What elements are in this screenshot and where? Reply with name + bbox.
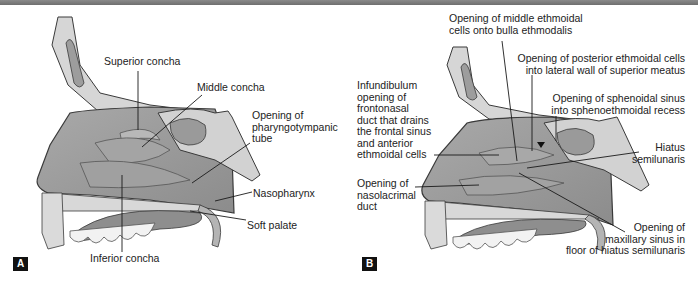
panel-badge-a: A [13, 257, 28, 271]
label-infundibulum: Infundibulum opening of frontonasal duct… [357, 80, 431, 161]
label-superior-concha: Superior concha [104, 56, 180, 68]
label-maxillary-sinus-opening: Opening of maxillary sinus in floor of h… [549, 222, 685, 257]
label-middle-ethmoidal-opening: Opening of middle ethmoidal cells onto b… [449, 13, 583, 36]
label-soft-palate: Soft palate [247, 220, 297, 232]
label-middle-concha: Middle concha [197, 82, 265, 94]
label-hiatus-semilunaris: Hiatus semilunaris [599, 142, 685, 165]
label-inferior-concha: Inferior concha [90, 253, 159, 265]
panel-badge-b: B [362, 257, 377, 271]
label-nasopharynx: Nasopharynx [253, 188, 315, 200]
panel-b: Opening of middle ethmoidal cells onto b… [349, 5, 698, 284]
upper-lip [425, 201, 447, 249]
upper-lip [42, 193, 64, 249]
label-pharyngotympanic-tube: Opening of pharyngotympanic tube [252, 110, 338, 145]
label-nasolacrimal-duct: Opening of nasolacrimal duct [357, 178, 416, 213]
nasal-cavity-illustration-a [0, 5, 349, 284]
panel-a: Superior concha Middle concha Opening of… [0, 5, 349, 284]
label-sphenoidal-sinus-opening: Opening of sphenoidal sinus into sphenoe… [529, 93, 685, 116]
soft-palate-shape [198, 205, 221, 247]
label-posterior-ethmoidal-opening: Opening of posterior ethmoidal cells int… [504, 53, 685, 76]
